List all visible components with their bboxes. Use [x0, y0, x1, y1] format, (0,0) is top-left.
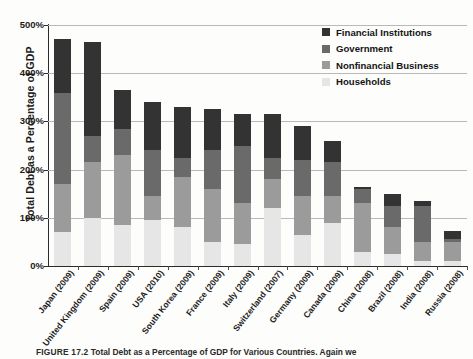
bar-segment-financialinstitutions	[84, 42, 101, 136]
bar-brazil[interactable]	[384, 194, 401, 266]
bar-segment-government	[234, 146, 251, 204]
y-tick-label-200: 200%	[0, 164, 44, 175]
bar-segment-households	[144, 220, 161, 266]
bar-segment-financialinstitutions	[204, 109, 221, 150]
bar-segment-government	[354, 189, 371, 203]
bar-segment-households	[264, 208, 281, 266]
bar-japan[interactable]	[54, 39, 71, 266]
bar-segment-government	[414, 206, 431, 242]
bar-segment-government	[174, 158, 191, 177]
legend-swatch-icon	[322, 28, 330, 36]
bar-segment-government	[324, 162, 341, 196]
bar-segment-households	[324, 223, 341, 266]
bar-segment-nonfinancialbusiness	[264, 179, 281, 208]
bar-segment-nonfinancialbusiness	[234, 203, 251, 244]
bar-segment-households	[114, 225, 131, 266]
bar-china[interactable]	[354, 187, 371, 267]
legend-item-nonfinancialbusiness[interactable]: Nonfinancial Business	[322, 57, 472, 74]
bar-segment-households	[354, 252, 371, 266]
bar-segment-households	[384, 254, 401, 266]
bar-segment-government	[204, 150, 221, 189]
bar-segment-financialinstitutions	[234, 114, 251, 145]
legend-item-government[interactable]: Government	[322, 41, 472, 58]
figure-caption: FIGURE 17.2 Total Debt as a Percentage o…	[36, 347, 466, 357]
bar-segment-nonfinancialbusiness	[54, 184, 71, 232]
legend-label: Financial Institutions	[336, 27, 432, 38]
bar-segment-financialinstitutions	[384, 194, 401, 206]
bar-southkorea[interactable]	[174, 107, 191, 266]
bar-segment-nonfinancialbusiness	[144, 196, 161, 220]
bar-segment-households	[234, 244, 251, 266]
bar-unitedkingdom[interactable]	[84, 42, 101, 266]
bar-segment-nonfinancialbusiness	[294, 196, 311, 235]
legend-item-financialinstitutions[interactable]: Financial Institutions	[322, 24, 472, 41]
bar-segment-nonfinancialbusiness	[414, 242, 431, 261]
bar-segment-nonfinancialbusiness	[384, 227, 401, 254]
bar-segment-households	[414, 261, 431, 266]
legend-item-households[interactable]: Households	[322, 74, 472, 91]
bar-segment-financialinstitutions	[114, 90, 131, 129]
bar-segment-households	[174, 227, 191, 266]
bar-switzerland[interactable]	[264, 114, 281, 266]
y-tick-label-0: 0%	[0, 260, 44, 271]
y-tick-label-400: 400%	[0, 67, 44, 78]
bar-segment-nonfinancialbusiness	[444, 242, 461, 261]
bar-france[interactable]	[204, 109, 221, 266]
y-tick-mark-0	[44, 266, 48, 267]
bar-segment-government	[54, 93, 71, 185]
bar-germany[interactable]	[294, 126, 311, 266]
legend-label: Households	[336, 76, 391, 87]
bar-segment-financialinstitutions	[294, 126, 311, 160]
y-tick-label-100: 100%	[0, 212, 44, 223]
bar-segment-government	[114, 129, 131, 156]
y-tick-label-300: 300%	[0, 115, 44, 126]
y-tick-label-500: 500%	[0, 19, 44, 30]
legend-label: Nonfinancial Business	[336, 60, 439, 71]
bar-segment-nonfinancialbusiness	[84, 162, 101, 217]
legend-swatch-icon	[322, 61, 330, 69]
bar-segment-government	[294, 160, 311, 196]
x-axis-labels: Japan (2009)United Kingdom (2009)Spain (…	[48, 268, 473, 348]
bar-segment-households	[444, 261, 461, 266]
bar-segment-nonfinancialbusiness	[174, 177, 191, 228]
bar-segment-government	[144, 150, 161, 196]
bar-segment-government	[384, 206, 401, 228]
bar-spain[interactable]	[114, 90, 131, 266]
bar-segment-financialinstitutions	[144, 102, 161, 150]
figure-container: Total Debt as a Percentage of GDP 0%100%…	[0, 0, 473, 359]
bar-segment-nonfinancialbusiness	[354, 203, 371, 251]
bar-india[interactable]	[414, 201, 431, 266]
bar-segment-financialinstitutions	[264, 114, 281, 157]
bar-segment-financialinstitutions	[174, 107, 191, 158]
bar-segment-households	[204, 242, 221, 266]
x-tick-label-southkorea: South Korea (2009)	[139, 268, 195, 336]
bar-usa[interactable]	[144, 102, 161, 266]
bar-segment-households	[84, 218, 101, 266]
bar-segment-households	[54, 232, 71, 266]
legend-label: Government	[336, 43, 393, 54]
caption-text: Total Debt as a Percentage of GDP for Va…	[91, 347, 357, 357]
bar-segment-government	[264, 158, 281, 180]
bar-segment-financialinstitutions	[444, 231, 461, 238]
bar-segment-financialinstitutions	[54, 39, 71, 92]
legend-swatch-icon	[322, 78, 330, 86]
legend: Financial InstitutionsGovernmentNonfinan…	[322, 24, 472, 90]
bar-segment-government	[84, 136, 101, 163]
bar-italy[interactable]	[234, 114, 251, 266]
bar-segment-financialinstitutions	[324, 141, 341, 163]
bar-segment-nonfinancialbusiness	[324, 196, 341, 223]
bar-canada[interactable]	[324, 141, 341, 266]
bar-russia[interactable]	[444, 231, 461, 266]
bar-segment-households	[294, 235, 311, 266]
caption-number: FIGURE 17.2	[36, 347, 88, 357]
legend-swatch-icon	[322, 45, 330, 53]
bar-segment-nonfinancialbusiness	[204, 189, 221, 242]
bar-segment-nonfinancialbusiness	[114, 155, 131, 225]
